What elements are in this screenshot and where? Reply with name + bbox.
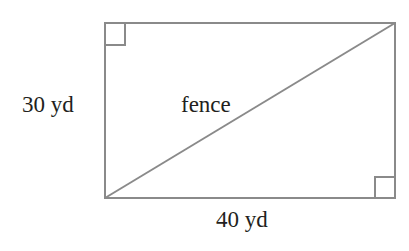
right-angle-marker-bottom-right bbox=[375, 177, 395, 198]
bottom-side-label: 40 yd bbox=[216, 207, 268, 233]
rectangle-diagram bbox=[0, 0, 409, 251]
diagonal-label: fence bbox=[181, 92, 231, 118]
right-angle-marker-top-left bbox=[105, 23, 125, 45]
fence-diagonal bbox=[105, 23, 395, 198]
left-side-label: 30 yd bbox=[22, 92, 74, 118]
